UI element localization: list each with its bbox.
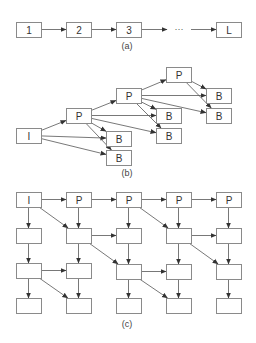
node-box (67, 229, 92, 244)
edge-arrow (41, 121, 66, 131)
node-box: B (107, 132, 132, 147)
node-label: B (116, 134, 123, 145)
node-box (167, 299, 192, 314)
node-label: P (176, 195, 183, 206)
node-label: P (176, 70, 183, 81)
diagram-canvas: 123L···(a) IPPPBBBBBB(b) IPPPP(c) (0, 0, 256, 343)
edge-arrow (91, 101, 116, 111)
panel-caption: (c) (122, 319, 133, 329)
node-label: P (126, 195, 133, 206)
node-box: 2 (67, 23, 92, 38)
node-box (217, 265, 242, 280)
panel-caption: (a) (122, 41, 133, 51)
node-box: P (167, 193, 192, 208)
node-label: P (126, 91, 133, 102)
node-label: 1 (26, 25, 32, 36)
node-box (17, 264, 42, 279)
node-label: B (166, 111, 173, 122)
node-box: 3 (117, 23, 142, 38)
node-label: B (216, 111, 223, 122)
edge-arrow (140, 279, 168, 298)
edge-arrow (191, 81, 206, 89)
node-box: P (67, 193, 92, 208)
node-box (17, 229, 42, 244)
node-box (167, 229, 192, 244)
edge-arrow (89, 243, 118, 264)
node-box: 1 (17, 23, 42, 38)
node-box: B (207, 89, 232, 104)
node-box: P (217, 193, 242, 208)
node-box (117, 229, 142, 244)
node-label: 2 (76, 25, 82, 36)
node-label: B (216, 91, 223, 102)
node-box: I (17, 193, 42, 208)
edge-arrow (189, 243, 218, 264)
edge-arrow (141, 80, 166, 91)
edge-arrow (139, 207, 168, 228)
node-box: B (107, 151, 132, 166)
node-box (17, 299, 42, 314)
node-box: P (167, 68, 192, 83)
node-label: L (226, 25, 232, 36)
panel-c-grid-graph: IPPPP(c) (17, 193, 242, 330)
edge-arrow (41, 136, 106, 138)
node-box: P (117, 193, 142, 208)
node-box (217, 299, 242, 314)
node-box: B (207, 109, 232, 124)
node-label: P (226, 195, 233, 206)
node-box: I (17, 129, 42, 144)
node-label: 3 (126, 25, 132, 36)
edge-arrow (39, 207, 68, 228)
node-label: I (28, 131, 31, 142)
node-box (167, 265, 192, 280)
node-box (217, 229, 242, 244)
node-box: P (117, 89, 142, 104)
panel-a-sequential-chain: 123L···(a) (17, 23, 242, 52)
node-label: P (76, 111, 83, 122)
node-box (67, 299, 92, 314)
edge-arrow (41, 139, 106, 155)
node-label: P (76, 195, 83, 206)
edge-arrow (91, 123, 106, 132)
node-box: B (157, 109, 182, 124)
edge-arrow (39, 278, 68, 298)
node-box (117, 265, 142, 280)
edge-arrow (141, 102, 156, 110)
node-box (67, 264, 92, 279)
node-label: I (28, 195, 31, 206)
panel-b-branching-graph: IPPPBBBBBB(b) (17, 68, 232, 179)
node-box: B (157, 129, 182, 144)
panel-caption: (b) (122, 168, 133, 178)
node-label: B (116, 153, 123, 164)
ellipsis: ··· (175, 24, 184, 34)
node-label: B (166, 131, 173, 142)
edge-arrow (91, 118, 156, 132)
node-box: P (67, 109, 92, 124)
node-box (117, 299, 142, 314)
node-box: L (217, 23, 242, 38)
